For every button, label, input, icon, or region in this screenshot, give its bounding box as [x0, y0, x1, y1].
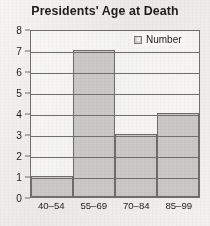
y-axis-tick-label: 2 [0, 151, 22, 162]
legend-color-swatch [134, 36, 142, 44]
bars-layer [31, 31, 199, 197]
bar [115, 134, 157, 197]
chart-title: Presidents' Age at Death [0, 4, 210, 18]
plot-area [30, 30, 200, 198]
y-axis-tick-label: 5 [0, 88, 22, 99]
bar [31, 176, 73, 197]
gridline [31, 178, 199, 179]
gridline [31, 94, 199, 95]
y-axis: 012345678 [0, 30, 30, 198]
x-axis-tick-label: 70–84 [115, 200, 158, 218]
y-axis-tick-label: 7 [0, 46, 22, 57]
y-axis-tick-label: 1 [0, 172, 22, 183]
x-axis-tick-label: 85–99 [158, 200, 201, 218]
legend-label: Number [146, 34, 182, 45]
y-axis-tick-label: 4 [0, 109, 22, 120]
bar-slot [31, 31, 73, 197]
bar-slot [157, 31, 199, 197]
x-axis-tick-label: 55–69 [73, 200, 116, 218]
gridline [31, 136, 199, 137]
bar-slot [115, 31, 157, 197]
chart-legend: Number [132, 33, 185, 46]
gridline [31, 115, 199, 116]
y-axis-tick-label: 6 [0, 67, 22, 78]
y-axis-tick-label: 8 [0, 25, 22, 36]
bar-slot [73, 31, 115, 197]
bar-chart: Presidents' Age at Death 012345678 40–54… [0, 0, 210, 226]
y-axis-tick-label: 3 [0, 130, 22, 141]
gridline [31, 73, 199, 74]
y-axis-tick-label: 0 [0, 193, 22, 204]
bar [157, 113, 199, 197]
x-axis-tick-label: 40–54 [30, 200, 73, 218]
gridline [31, 157, 199, 158]
gridline [31, 52, 199, 53]
x-axis: 40–5455–6970–8485–99 [30, 200, 200, 218]
